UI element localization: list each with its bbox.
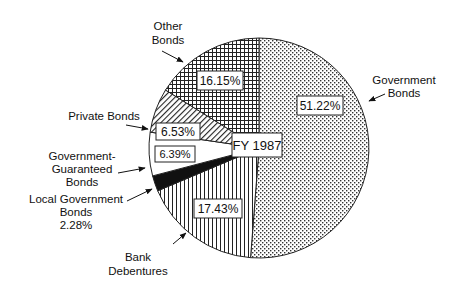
center-label: FY 1987 <box>233 138 282 153</box>
pct-box-other-bonds: 16.15% <box>197 71 243 90</box>
pct-private-bonds: 6.53% <box>161 125 195 139</box>
label-private-bonds: Private Bonds <box>68 110 140 122</box>
arrow-icon <box>369 94 385 101</box>
pie-chart: 51.22% 16.15% 6.53% 6.39% 17.43% FY 1987… <box>0 0 462 291</box>
arrow-icon <box>173 233 186 244</box>
callout-local-government-bonds: Local Government Bonds 2.28% <box>29 189 152 231</box>
label-local-gov-line3: 2.28% <box>60 219 93 231</box>
pct-government-bonds: 51.22% <box>300 99 341 113</box>
label-other-bonds-line2: Bonds <box>152 34 185 46</box>
label-gov-guaranteed-line1: Government- <box>48 150 115 162</box>
callout-gov-guaranteed: Government- Guaranteed Bonds <box>48 150 145 188</box>
callout-private-bonds: Private Bonds <box>68 110 148 129</box>
label-local-gov-line1: Local Government <box>29 193 124 205</box>
arrow-icon <box>126 125 148 129</box>
pct-bank-debentures: 17.43% <box>198 202 239 216</box>
callout-other-bonds: Other Bonds <box>152 20 185 62</box>
label-gov-guaranteed-line3: Bonds <box>66 176 99 188</box>
callout-bank-debentures: Bank Debentures <box>108 233 186 277</box>
label-gov-guaranteed-line2: Guaranteed <box>52 163 113 175</box>
label-government-bonds-line2: Bonds <box>388 87 421 99</box>
arrow-icon <box>118 168 145 173</box>
pct-box-bank-debentures: 17.43% <box>194 199 242 218</box>
pct-box-gov-guaranteed: 6.39% <box>155 146 195 162</box>
label-government-bonds-line1: Government <box>372 74 436 86</box>
arrow-icon <box>127 189 152 201</box>
label-bank-debentures-line1: Bank <box>125 251 151 263</box>
pct-other-bonds: 16.15% <box>200 74 241 88</box>
pct-box-private-bonds: 6.53% <box>156 123 200 140</box>
label-other-bonds-line1: Other <box>154 20 183 32</box>
callout-government-bonds: Government Bonds <box>369 74 436 101</box>
pct-box-government-bonds: 51.22% <box>297 96 343 115</box>
pct-gov-guaranteed: 6.39% <box>159 148 190 160</box>
center-label-box: FY 1987 <box>232 133 282 157</box>
label-bank-debentures-line2: Debentures <box>108 265 168 277</box>
label-local-gov-line2: Bonds <box>60 206 93 218</box>
arrow-icon <box>162 51 183 62</box>
